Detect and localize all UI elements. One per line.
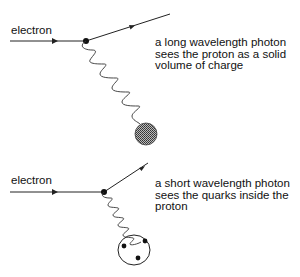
electron-label: electron (11, 24, 52, 36)
quark-dot (122, 244, 127, 249)
caption-line: a short wavelength photon (155, 178, 290, 190)
quark-dot (143, 239, 148, 244)
caption-line: a long wavelength photon (155, 37, 286, 49)
incoming-electron-line (10, 38, 86, 44)
arrow-icon (52, 189, 58, 195)
incoming-electron-line (10, 189, 104, 195)
caption-line: proton (155, 201, 290, 213)
caption-line: volume of charge (155, 60, 286, 72)
photon-wave-short (102, 192, 141, 245)
caption-short-wavelength: a short wavelength photon sees the quark… (155, 178, 290, 213)
electron-proton-scattering-diagram: electron a long wavelength photon sees t… (0, 0, 300, 277)
outgoing-electron-line (104, 163, 148, 192)
photon-wave-long (82, 41, 140, 124)
solid-proton (135, 123, 157, 145)
electron-label: electron (11, 174, 52, 186)
arrow-icon (52, 38, 58, 44)
arrow-icon (129, 25, 135, 30)
caption-long-wavelength: a long wavelength photon sees the proton… (155, 37, 286, 72)
quark-dot (136, 256, 141, 261)
